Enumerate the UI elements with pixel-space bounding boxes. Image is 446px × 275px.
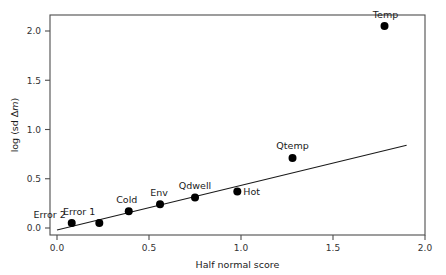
y-tick-label: 0.0 bbox=[27, 223, 42, 233]
data-point-error-2 bbox=[68, 219, 76, 227]
y-axis-title-suffix: ) bbox=[9, 98, 20, 102]
x-axis-ticks: 0.00.51.01.52.0 bbox=[50, 235, 433, 253]
data-point-qdwell bbox=[191, 193, 199, 201]
data-point-error-1 bbox=[95, 219, 103, 227]
data-point-hot bbox=[233, 188, 241, 196]
data-point-label-temp: Temp bbox=[372, 9, 398, 20]
y-axis-title: log (sd Δm) bbox=[9, 98, 20, 153]
fit-line-segment bbox=[57, 145, 407, 230]
x-tick-label: 1.5 bbox=[326, 243, 340, 253]
data-point-label-error-2: Error 2 bbox=[33, 209, 65, 220]
data-point-labels-layer: Error 2Error 1ColdEnvQdwellHotQtempTemp bbox=[33, 9, 398, 220]
y-tick-label: 1.5 bbox=[27, 76, 41, 86]
y-axis-title-prefix: log (sd Δ bbox=[9, 110, 20, 152]
plot-frame bbox=[50, 15, 425, 235]
data-point-label-hot: Hot bbox=[243, 186, 260, 197]
y-axis-title-variable: m bbox=[9, 101, 20, 110]
x-tick-label: 1.0 bbox=[234, 243, 249, 253]
x-axis-title: Half normal score bbox=[196, 259, 280, 270]
data-point-label-qdwell: Qdwell bbox=[179, 180, 211, 191]
data-point-qtemp bbox=[289, 154, 297, 162]
data-point-label-qtemp: Qtemp bbox=[276, 140, 308, 151]
chart-canvas: 0.00.51.01.52.0 0.00.51.01.52.0 Error 2E… bbox=[0, 0, 446, 275]
data-point-label-error-1: Error 1 bbox=[63, 206, 95, 217]
y-axis-ticks: 0.00.51.01.52.0 bbox=[27, 26, 50, 233]
half-normal-plot-figure: 0.00.51.01.52.0 0.00.51.01.52.0 Error 2E… bbox=[0, 0, 446, 275]
x-tick-label: 0.0 bbox=[50, 243, 65, 253]
y-tick-label: 1.0 bbox=[27, 125, 42, 135]
y-tick-label: 2.0 bbox=[27, 26, 42, 36]
regression-fit-line bbox=[57, 145, 407, 230]
plot-border bbox=[50, 15, 425, 235]
data-point-label-env: Env bbox=[150, 187, 168, 198]
data-point-temp bbox=[381, 22, 389, 30]
y-tick-label: 0.5 bbox=[27, 174, 41, 184]
x-tick-label: 2.0 bbox=[418, 243, 433, 253]
data-point-label-cold: Cold bbox=[116, 194, 137, 205]
x-tick-label: 0.5 bbox=[142, 243, 156, 253]
data-point-env bbox=[156, 200, 164, 208]
data-point-cold bbox=[125, 207, 133, 215]
